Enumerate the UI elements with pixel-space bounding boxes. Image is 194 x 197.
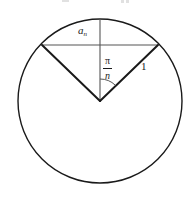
chord-length-subscript: n xyxy=(84,30,88,38)
chord-length-label: an xyxy=(78,25,87,36)
geometry-figure: an 1 π n xyxy=(0,0,194,197)
clipped-glyph-fragment xyxy=(126,0,129,3)
chord-length-symbol: a xyxy=(78,24,84,36)
angle-denominator: n xyxy=(103,70,112,82)
figure-canvas xyxy=(0,0,194,197)
central-angle-label: π n xyxy=(103,55,112,81)
left-radius-leg xyxy=(42,45,100,101)
fraction-bar xyxy=(103,68,112,69)
clipped-glyph-fragment xyxy=(121,0,124,3)
radius-length-label: 1 xyxy=(141,61,147,72)
clipped-glyph-fragment xyxy=(62,0,69,2)
angle-numerator: π xyxy=(103,55,112,67)
